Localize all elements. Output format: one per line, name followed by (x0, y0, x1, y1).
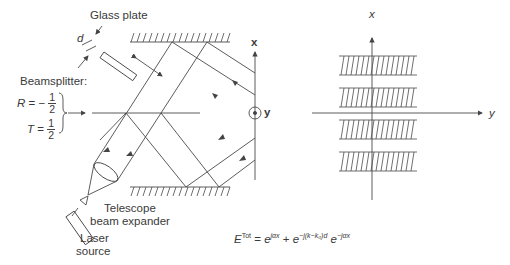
telescope-label-1: Telescope (104, 202, 156, 215)
beamsplitter-label: Beamsplitter: (20, 75, 87, 88)
fringe-band-1 (339, 56, 417, 75)
left-x-axis-label: x (251, 36, 257, 49)
beam-paths (94, 42, 255, 187)
top-mirror (130, 33, 230, 42)
transmittance-eq: T = 12 (27, 118, 55, 141)
brace (59, 93, 67, 133)
glass-plate (100, 52, 137, 81)
fraction-half: 12 (47, 118, 55, 141)
telescope-label-2: beam expander (90, 215, 170, 228)
fringe-pattern (339, 56, 417, 171)
thickness-d-label: d (77, 32, 83, 45)
laser-label-2: source (76, 245, 111, 258)
tilt-double-arrow (136, 58, 162, 76)
total-field-formula: ETot = ejαx + e−j(k−k₀)d e−jαx (234, 232, 350, 245)
right-y-axis-label: y (489, 107, 495, 120)
bottom-mirror (130, 187, 230, 196)
glass-plate-arrow (96, 26, 102, 34)
left-y-axis-label: y (264, 106, 270, 119)
reflectance-eq: R = − 12 (17, 92, 56, 115)
laser-label-1: Laser (80, 232, 109, 245)
fringe-band-3 (339, 120, 417, 139)
fringe-band-4 (339, 152, 417, 171)
glass-plate-label: Glass plate (90, 9, 148, 22)
right-x-axis-label: x (369, 8, 375, 21)
fringe-band-2 (339, 88, 417, 107)
fraction-half: 12 (48, 92, 56, 115)
d-arrow (78, 56, 88, 68)
